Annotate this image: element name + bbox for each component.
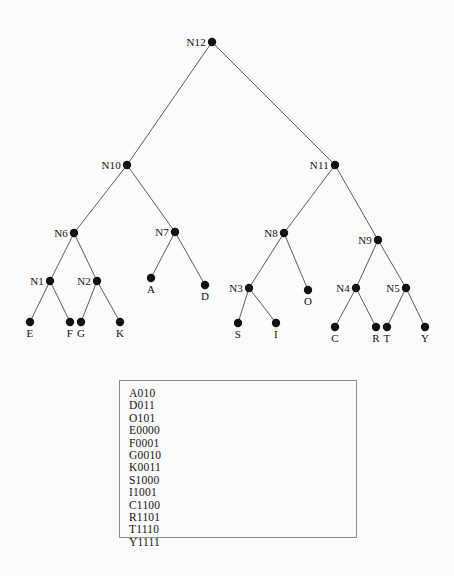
tree-node-label-Y: Y — [421, 332, 429, 344]
tree-node-label-N3: N3 — [229, 282, 243, 294]
tree-edge-N8-N3 — [249, 233, 284, 288]
tree-edge-N10-N6 — [74, 165, 127, 233]
tree-node-label-N4: N4 — [336, 282, 350, 294]
tree-edge-N10-N7 — [127, 165, 175, 232]
tree-node-S[interactable] — [234, 319, 242, 327]
tree-node-F[interactable] — [66, 318, 74, 326]
code-table-entry: D011 — [129, 399, 356, 411]
tree-node-N11[interactable] — [331, 161, 339, 169]
tree-node-label-S: S — [235, 328, 241, 340]
tree-node-N8[interactable] — [280, 229, 288, 237]
tree-edge-N12-N10 — [127, 42, 212, 165]
code-table-entry: K0011 — [129, 461, 356, 473]
tree-node-N6[interactable] — [70, 229, 78, 237]
code-table-entry: F0001 — [129, 437, 356, 449]
tree-node-label-I: I — [274, 328, 278, 340]
tree-node-label-R: R — [372, 332, 380, 344]
tree-node-A[interactable] — [147, 274, 155, 282]
tree-node-N2[interactable] — [93, 277, 101, 285]
tree-node-label-A: A — [147, 283, 155, 295]
tree-node-label-N12: N12 — [186, 36, 206, 48]
tree-node-K[interactable] — [116, 318, 124, 326]
tree-svg — [0, 0, 454, 362]
tree-node-N1[interactable] — [46, 277, 54, 285]
tree-node-label-N9: N9 — [358, 234, 372, 246]
tree-node-N5[interactable] — [402, 284, 410, 292]
code-table-entry: C1100 — [129, 499, 356, 511]
tree-node-label-C: C — [331, 332, 339, 344]
tree-edge-N2-K — [97, 281, 120, 322]
tree-node-label-K: K — [116, 327, 124, 339]
code-table-entry: O101 — [129, 412, 356, 424]
code-table-entry: I1001 — [129, 486, 356, 498]
tree-edge-N9-N4 — [356, 240, 378, 288]
code-table-entry: G0010 — [129, 449, 356, 461]
tree-edge-N1-F — [50, 281, 70, 322]
tree-node-label-N1: N1 — [30, 275, 44, 287]
tree-node-E[interactable] — [26, 318, 34, 326]
tree-node-label-N8: N8 — [264, 227, 278, 239]
tree-node-N4[interactable] — [352, 284, 360, 292]
tree-node-label-O: O — [304, 295, 312, 307]
tree-node-label-N7: N7 — [155, 226, 169, 238]
huffman-tree-diagram: N12N10N11N6N7N8N9N1N2N3N4N5ADOEFGKSICRTY — [0, 0, 454, 362]
code-table-entry: R1101 — [129, 511, 356, 523]
code-table-entry: E0000 — [129, 424, 356, 436]
tree-node-O[interactable] — [304, 286, 312, 294]
tree-node-label-N11: N11 — [310, 159, 329, 171]
code-table-entry: Y1111 — [129, 536, 356, 548]
tree-node-label-T: T — [384, 332, 391, 344]
tree-edge-N11-N9 — [335, 165, 378, 240]
tree-node-label-N2: N2 — [77, 275, 91, 287]
tree-node-N9[interactable] — [374, 236, 382, 244]
tree-edge-N1-E — [30, 281, 50, 322]
tree-node-N10[interactable] — [123, 161, 131, 169]
tree-node-C[interactable] — [331, 323, 339, 331]
tree-edge-N3-I — [249, 288, 276, 323]
tree-node-label-N5: N5 — [386, 282, 400, 294]
tree-node-N7[interactable] — [171, 228, 179, 236]
code-table-box: A010D011O101E0000F0001G0010K0011S1000I10… — [119, 380, 357, 538]
tree-node-R[interactable] — [372, 323, 380, 331]
code-table-entry: T1110 — [129, 523, 356, 535]
page-root: N12N10N11N6N7N8N9N1N2N3N4N5ADOEFGKSICRTY… — [0, 0, 454, 576]
code-table-entry: S1000 — [129, 474, 356, 486]
tree-node-label-N6: N6 — [54, 227, 68, 239]
tree-edge-N6-N2 — [74, 233, 97, 281]
tree-node-T[interactable] — [383, 323, 391, 331]
node-layer — [26, 38, 429, 331]
tree-edge-N7-A — [151, 232, 175, 278]
tree-node-label-E: E — [27, 327, 34, 339]
tree-node-D[interactable] — [201, 281, 209, 289]
code-table-entry: A010 — [129, 387, 356, 399]
tree-edge-N11-N8 — [284, 165, 335, 233]
tree-edge-N5-Y — [406, 288, 425, 327]
tree-edge-N7-D — [175, 232, 205, 285]
tree-node-label-G: G — [77, 327, 85, 339]
tree-node-label-D: D — [201, 290, 209, 302]
tree-node-N3[interactable] — [245, 284, 253, 292]
tree-node-Y[interactable] — [421, 323, 429, 331]
tree-edge-N4-R — [356, 288, 376, 327]
tree-edge-N9-N5 — [378, 240, 406, 288]
tree-edge-N6-N1 — [50, 233, 74, 281]
tree-node-N12[interactable] — [208, 38, 216, 46]
tree-node-G[interactable] — [77, 318, 85, 326]
tree-node-I[interactable] — [272, 319, 280, 327]
tree-edge-N8-O — [284, 233, 308, 290]
tree-node-label-F: F — [67, 327, 73, 339]
tree-edge-N2-G — [81, 281, 97, 322]
tree-edge-N12-N11 — [212, 42, 335, 165]
code-table-list: A010D011O101E0000F0001G0010K0011S1000I10… — [120, 381, 356, 548]
tree-node-label-N10: N10 — [101, 159, 121, 171]
